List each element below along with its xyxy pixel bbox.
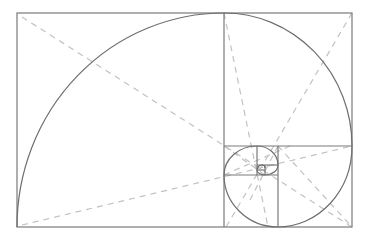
diagonal-main-down — [22, 17, 352, 227]
diagonal-square5 — [224, 146, 265, 175]
diagonal-square2-b — [226, 13, 352, 227]
golden-spiral-diagram — [0, 0, 369, 240]
diagonal-guides — [22, 13, 352, 227]
diagonal-square3 — [278, 146, 352, 227]
diagonal-square2 — [224, 13, 268, 227]
diagonal-main-up — [22, 146, 352, 225]
